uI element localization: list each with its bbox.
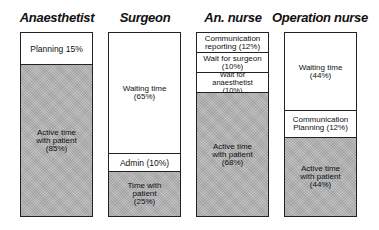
segment-waiting-time: Waiting time (44%) bbox=[285, 33, 356, 111]
segment-admin: Admin (10%) bbox=[109, 154, 180, 172]
segment-wait-for-anaesthetist: Wait for anaesthetist (10%) bbox=[197, 73, 268, 93]
bar-operation-nurse: Waiting time (44%) Communication Plannin… bbox=[284, 32, 357, 217]
bar-an-nurse: Communication reporting (12%) Wait for s… bbox=[196, 32, 269, 217]
column-title-anaesthetist: Anaesthetist bbox=[8, 10, 106, 26]
segment-communication-planning: Communication Planning (12%) bbox=[285, 111, 356, 138]
column-title-operation-nurse: Operation nurse bbox=[270, 10, 370, 26]
bar-surgeon: Waiting time (65%) Admin (10%) Time with… bbox=[108, 32, 181, 217]
segment-time-with-patient: Time with patient (25%) bbox=[109, 172, 180, 216]
segment-planning: Planning 15% bbox=[21, 33, 92, 65]
segment-waiting-time: Waiting time (65%) bbox=[109, 33, 180, 154]
column-title-an-nurse: An. nurse bbox=[184, 10, 282, 26]
segment-active-time: Active time with patient (68%) bbox=[197, 93, 268, 216]
segment-communication-reporting: Communication reporting (12%) bbox=[197, 33, 268, 53]
segment-active-time: Active time with patient (44%) bbox=[285, 138, 356, 216]
segment-active-time: Active time with patient (85%) bbox=[21, 65, 92, 216]
column-title-surgeon: Surgeon bbox=[96, 10, 194, 26]
bar-anaesthetist: Planning 15% Active time with patient (8… bbox=[20, 32, 93, 217]
